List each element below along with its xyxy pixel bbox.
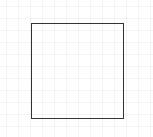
drawing-canvas[interactable]	[0, 0, 153, 137]
square-shape[interactable]	[31, 23, 124, 119]
